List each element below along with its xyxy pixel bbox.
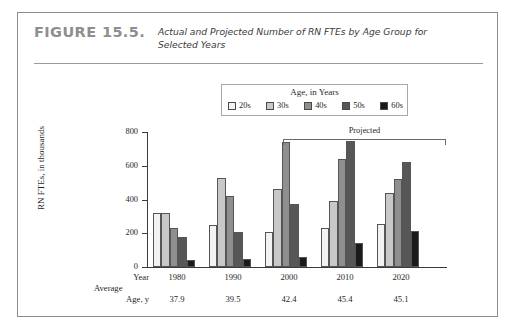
y-tick-400: [142, 200, 147, 201]
average-age-cell-2020: 45.1: [373, 294, 429, 304]
average-age-cell-1990: 39.5: [205, 294, 261, 304]
y-tick-800: [142, 132, 147, 133]
bar-1990-60s: [243, 259, 251, 267]
x-axis-line: [147, 267, 447, 268]
average-age-cell-2000: 42.4: [261, 294, 317, 304]
y-tick-label-800: 800: [114, 128, 138, 136]
bar-1980-50s: [178, 237, 186, 267]
row-label-age: Age, y: [113, 294, 149, 304]
bar-1990-40s: [226, 196, 234, 267]
row-label-average: Average: [94, 283, 149, 293]
year-cell-2010: 2010: [317, 272, 373, 282]
year-cell-1980: 1980: [149, 272, 205, 282]
bar-1990-20s: [209, 225, 217, 267]
year-cell-1990: 1990: [205, 272, 261, 282]
bar-1980-60s: [187, 260, 195, 267]
figure-frame: FIGURE 15.5. Actual and Projected Number…: [17, 12, 498, 317]
bar-1980-40s: [170, 228, 178, 267]
y-tick-label-400: 400: [114, 196, 138, 204]
bar-1980-30s: [161, 213, 169, 267]
bar-2020-50s: [402, 162, 410, 267]
bar-2000-50s: [290, 204, 298, 267]
bar-2010-40s: [338, 159, 346, 267]
bar-1980-20s: [153, 213, 161, 267]
y-tick-label-200: 200: [114, 229, 138, 237]
bar-2010-20s: [321, 228, 329, 267]
bar-1990-50s: [234, 232, 242, 267]
bar-2000-60s: [299, 257, 307, 267]
bar-2000-40s: [282, 142, 290, 267]
average-age-cell-2010: 45.4: [317, 294, 373, 304]
bar-2000-20s: [265, 232, 273, 267]
projected-bracket: [283, 139, 446, 145]
year-cell-2020: 2020: [373, 272, 429, 282]
bar-2000-30s: [273, 189, 281, 267]
bar-2020-40s: [394, 179, 402, 267]
y-axis-line: [147, 132, 148, 267]
bar-2010-60s: [355, 243, 363, 267]
bar-2020-60s: [411, 231, 419, 267]
year-cell-2000: 2000: [261, 272, 317, 282]
bar-2020-20s: [377, 224, 385, 267]
y-tick-label-0: 0: [114, 263, 138, 271]
y-tick-label-600: 600: [114, 162, 138, 170]
y-tick-200: [142, 233, 147, 234]
bar-1990-30s: [217, 178, 225, 267]
y-axis-title: RN FTEs, in thousands: [36, 93, 46, 243]
bar-2010-30s: [329, 201, 337, 267]
bar-2010-50s: [346, 141, 354, 267]
projected-annotation-label: Projected: [283, 126, 446, 135]
average-age-cell-1980: 37.9: [149, 294, 205, 304]
y-tick-600: [142, 166, 147, 167]
row-label-year: Year: [113, 272, 149, 282]
y-tick-0: [142, 267, 147, 268]
bar-2020-30s: [385, 193, 393, 267]
